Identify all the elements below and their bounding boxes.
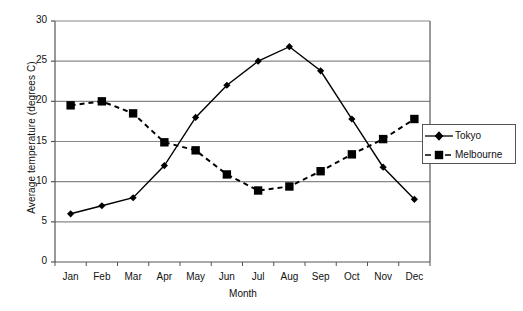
legend-item-tokyo[interactable]: Tokyo: [423, 126, 515, 145]
x-tick-label: Dec: [394, 271, 434, 282]
series-melbourne: [66, 97, 418, 195]
data-point-marker: [98, 97, 106, 105]
x-axis-title: Month: [55, 288, 431, 299]
y-tick-label: 0: [21, 255, 47, 266]
chart-legend[interactable]: Tokyo Melbourne: [422, 124, 516, 164]
legend-item-melbourne[interactable]: Melbourne: [423, 145, 515, 164]
data-point-marker: [316, 167, 324, 175]
data-point-marker: [160, 138, 168, 146]
data-point-marker: [66, 101, 74, 109]
gridlines: [55, 61, 430, 222]
data-point-marker: [348, 150, 356, 158]
data-point-marker: [379, 135, 387, 143]
line-chart: 051015202530 JanFebMarAprMayJunJulAugSep…: [0, 0, 523, 311]
data-point-marker: [67, 210, 74, 217]
data-series-layer: [66, 43, 418, 217]
series-tokyo: [67, 43, 418, 217]
legend-label-melbourne: Melbourne: [455, 149, 502, 160]
square-marker-icon: [423, 146, 455, 164]
data-point-marker: [410, 115, 418, 123]
data-point-marker: [285, 182, 293, 190]
data-point-marker: [98, 202, 105, 209]
diamond-marker-icon: [423, 127, 455, 145]
data-point-marker: [223, 170, 231, 178]
legend-label-tokyo: Tokyo: [455, 130, 481, 141]
data-point-marker: [254, 186, 262, 194]
data-point-marker: [348, 115, 355, 122]
data-point-marker: [191, 146, 199, 154]
data-point-marker: [129, 109, 137, 117]
y-axis-title: Average temperature (degrees C): [26, 23, 37, 253]
